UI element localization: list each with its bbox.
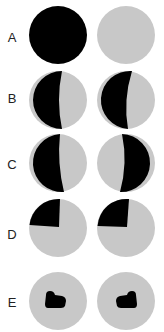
circle-b-left — [28, 70, 88, 130]
circle-a-left — [28, 5, 88, 65]
row-label-b: B — [5, 92, 19, 106]
row-b: B — [0, 68, 164, 132]
circle-e-right — [96, 271, 156, 331]
circle-a-right — [96, 5, 156, 65]
circle-c-left — [28, 133, 88, 193]
circle-e-left — [28, 271, 88, 331]
circle-d-left — [28, 198, 88, 258]
circle-b-right — [96, 70, 156, 130]
row-label-d: D — [5, 228, 19, 242]
circle-c-right — [96, 133, 156, 193]
row-e: E — [0, 268, 164, 332]
row-label-c: C — [5, 158, 19, 172]
row-a: A — [0, 4, 164, 68]
row-d: D — [0, 196, 164, 260]
circle-d-right — [96, 198, 156, 258]
row-c: C — [0, 132, 164, 196]
row-label-e: E — [5, 296, 19, 310]
row-label-a: A — [5, 31, 19, 45]
